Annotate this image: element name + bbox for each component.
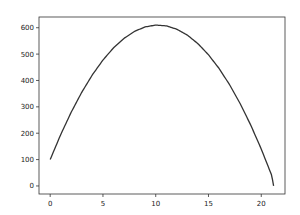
y-tick-label: 0 [30,182,34,190]
data-line [50,25,273,186]
x-tick-label: 0 [48,200,52,208]
x-tick-label: 15 [204,200,213,208]
x-tick-label: 5 [101,200,105,208]
x-tick-label: 20 [257,200,266,208]
y-tick-label: 500 [21,51,34,59]
x-tick-label: 10 [151,200,160,208]
y-tick-label: 600 [21,24,34,32]
y-tick-label: 200 [21,130,34,138]
y-tick-label: 400 [21,77,34,85]
line-chart: 051015200100200300400500600 [0,0,300,215]
axes-frame [39,17,285,194]
plot-area: 051015200100200300400500600 [21,17,285,208]
y-tick-label: 100 [21,156,34,164]
y-tick-label: 300 [21,103,34,111]
